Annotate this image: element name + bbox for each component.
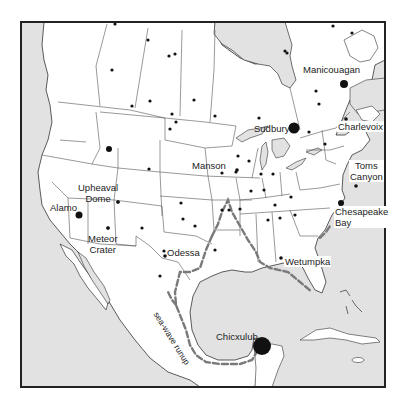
label-alamo: Alamo	[50, 202, 77, 213]
label-meteor-crater: Meteor Crater	[88, 233, 118, 255]
label-manson: Manson	[192, 160, 226, 171]
crater-wetumpka	[279, 256, 283, 260]
label-charlevoix: Charlevoix	[337, 121, 384, 132]
label-meteor-line2: Crater	[88, 244, 118, 255]
label-toms-canyon: Toms Canyon	[349, 160, 384, 182]
label-chicxulub: Chicxulub	[216, 331, 258, 342]
crater-manicouagan	[340, 80, 348, 88]
label-upheaval-line1: Upheaval	[78, 182, 118, 193]
crater-sudbury	[289, 123, 300, 134]
label-chesapeake-bay: Chesapeake Bay	[334, 206, 389, 228]
label-upheaval-line2: Dome	[78, 193, 118, 204]
crater-manson	[235, 168, 239, 172]
label-chesapeake-line1: Chesapeake	[335, 206, 388, 217]
jamaica	[352, 358, 364, 363]
label-wetumpka: Wetumpka	[284, 256, 331, 267]
crater-idaho	[106, 146, 112, 152]
label-odessa: Odessa	[167, 247, 200, 258]
label-sudbury: Sudbury	[254, 123, 289, 134]
crater-toms-canyon	[354, 184, 358, 188]
crater-meteor	[106, 226, 110, 230]
label-toms-canyon-line2: Canyon	[350, 171, 383, 182]
label-meteor-line1: Meteor	[88, 233, 118, 244]
label-toms-canyon-line1: Toms	[350, 160, 383, 171]
label-upheaval-dome: Upheaval Dome	[78, 182, 118, 204]
label-chesapeake-line2: Bay	[335, 217, 388, 228]
label-manicouagan: Manicouagan	[302, 64, 361, 75]
